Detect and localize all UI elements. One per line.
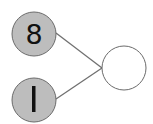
number-bond-diagram: 8 xyxy=(0,0,153,124)
part-circle-bottom xyxy=(12,78,56,122)
digit-one-stroke xyxy=(32,86,36,112)
part-circle-top: 8 xyxy=(12,12,56,56)
part-top-value: 8 xyxy=(25,19,42,50)
connector-line-bottom xyxy=(56,68,102,99)
connector-line-top xyxy=(56,33,102,68)
whole-circle[interactable] xyxy=(102,46,146,90)
